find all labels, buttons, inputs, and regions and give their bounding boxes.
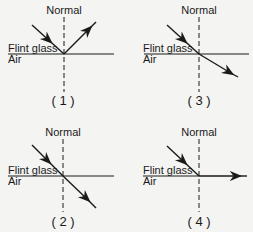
refracted-ray-arrow <box>199 54 229 72</box>
air-label: Air <box>8 175 22 187</box>
air-label: Air <box>143 53 157 65</box>
normal-label: Normal <box>46 4 81 16</box>
refracted-ray <box>227 71 238 77</box>
incident-ray-arrow <box>32 145 47 160</box>
refracted-ray <box>84 196 96 208</box>
panel-label: ( 1 ) <box>51 93 74 108</box>
normal-label: Normal <box>45 126 80 138</box>
panel-4: Normal Flint glass Air ( 4 ) <box>143 126 247 229</box>
refracted-ray-arrow <box>63 176 86 198</box>
panel-3: Normal Flint glass Air ( 3 ) <box>143 4 249 108</box>
incident-ray-arrow <box>167 146 183 161</box>
panel-label: ( 3 ) <box>187 93 210 108</box>
incident-ray-arrow <box>32 25 48 40</box>
ray-diagrams: Normal Flint glass Air ( 1 ) Normal Flin… <box>0 0 253 232</box>
panel-label: ( 4 ) <box>187 214 210 229</box>
reflected-ray-arrow <box>64 30 88 54</box>
panel-label: ( 2 ) <box>51 214 74 229</box>
incident-ray-arrow <box>167 25 183 40</box>
normal-label: Normal <box>181 126 216 138</box>
normal-label: Normal <box>181 4 216 16</box>
panel-1: Normal Flint glass Air ( 1 ) <box>8 4 114 108</box>
air-label: Air <box>143 175 157 187</box>
air-label: Air <box>8 53 22 65</box>
reflected-ray <box>86 22 96 32</box>
panel-2: Normal Flint glass Air ( 2 ) <box>8 126 114 229</box>
